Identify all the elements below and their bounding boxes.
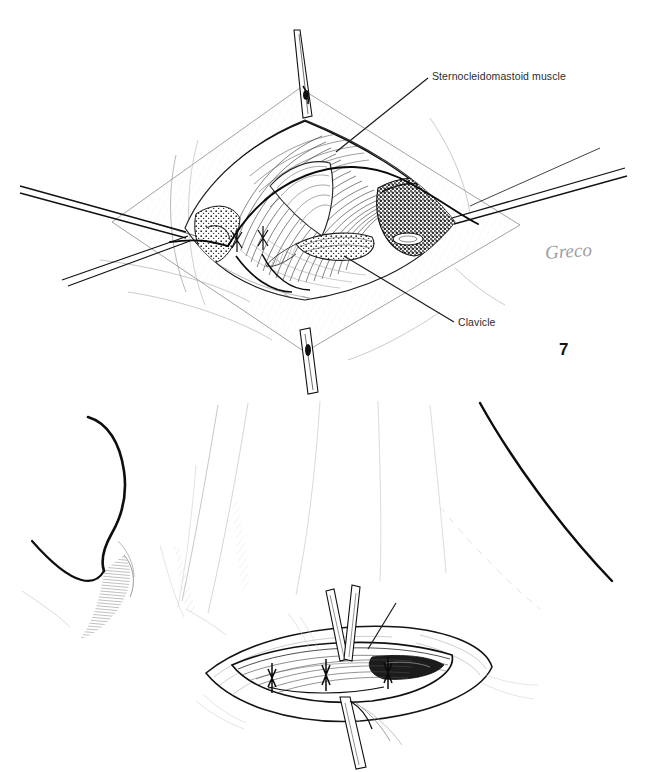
label-clavicle: Clavicle: [458, 317, 496, 328]
fig8-shoulder-contour: [440, 403, 612, 609]
label-sternocleidomastoid: Sternocleidomastoid muscle: [432, 71, 566, 82]
figure-7: Sternocleidomastoid muscle Clavicle 7 Gr…: [0, 0, 645, 400]
fig8-chin-profile: [22, 417, 134, 639]
fig8-neck-contours: [160, 401, 446, 635]
figure-number-7: 7: [559, 341, 568, 358]
figure-8: Platysma muscle 8 Greco: [0, 395, 645, 772]
artist-signature-figure-7: Greco: [544, 240, 592, 262]
illustration-page: Sternocleidomastoid muscle Clavicle 7 Gr…: [0, 0, 645, 772]
figure-8-drawing: [0, 395, 645, 772]
fig8-incision-field: [196, 585, 538, 769]
figure-7-drawing: [0, 0, 645, 400]
